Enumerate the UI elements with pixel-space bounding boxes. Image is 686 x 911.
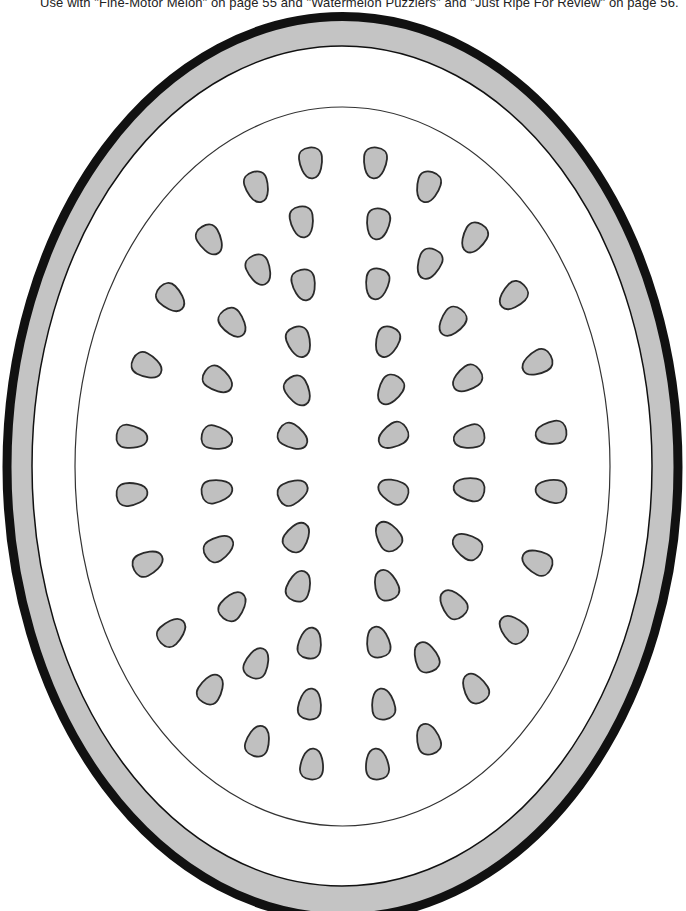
watermelon-slice [0, 0, 686, 911]
rind-inner-edge [32, 46, 652, 886]
